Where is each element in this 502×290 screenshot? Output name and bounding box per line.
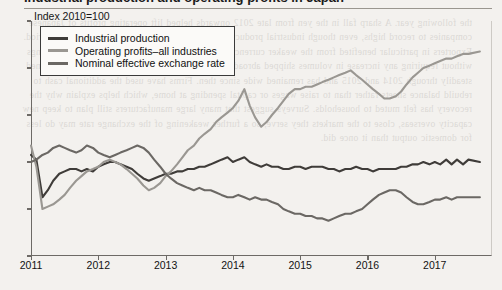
legend-item: Industrial production <box>48 32 225 45</box>
legend-label-exchange-rate: Nominal effective exchange rate <box>75 57 225 69</box>
legend-label-operating-profits: Operating profits–all industries <box>75 45 217 57</box>
x-axis-tick-label: 2013 <box>154 259 177 271</box>
figure-title: Industrial production and operating prof… <box>24 0 344 5</box>
x-axis-tick <box>31 256 32 260</box>
chart-legend: Industrial production Operating profits–… <box>40 26 235 76</box>
y-axis-tick <box>27 114 31 115</box>
x-axis-tick-label: 2011 <box>20 259 43 271</box>
legend-item: Operating profits–all industries <box>48 45 225 58</box>
x-axis-tick <box>98 256 99 260</box>
x-axis-tick-label: 2016 <box>356 259 379 271</box>
x-axis-tick <box>233 256 234 260</box>
x-axis-tick <box>166 256 167 260</box>
legend-swatch-operating-profits <box>48 49 68 52</box>
y-axis-tick <box>27 20 31 21</box>
legend-swatch-exchange-rate <box>48 62 68 65</box>
legend-label-industrial-production: Industrial production <box>75 32 170 44</box>
legend-swatch-industrial-production <box>48 37 68 40</box>
x-axis-tick <box>435 256 436 260</box>
x-axis-tick-label: 2017 <box>423 259 446 271</box>
y-axis-tick <box>27 161 31 162</box>
chart-plot-area: Industrial production Operating profits–… <box>31 21 492 256</box>
series-line-nominal-effective-exchange-rate <box>31 146 480 221</box>
legend-item: Nominal effective exchange rate <box>48 57 225 70</box>
y-axis-tick <box>27 67 31 68</box>
series-line-industrial-production <box>31 155 480 197</box>
x-axis-tick <box>367 256 368 260</box>
x-axis-tick-label: 2012 <box>87 259 110 271</box>
y-axis-tick <box>27 208 31 209</box>
title-rule <box>24 8 492 9</box>
x-axis-tick <box>300 256 301 260</box>
x-axis-tick-label: 2014 <box>221 259 244 271</box>
x-axis-tick-label: 2015 <box>289 259 312 271</box>
